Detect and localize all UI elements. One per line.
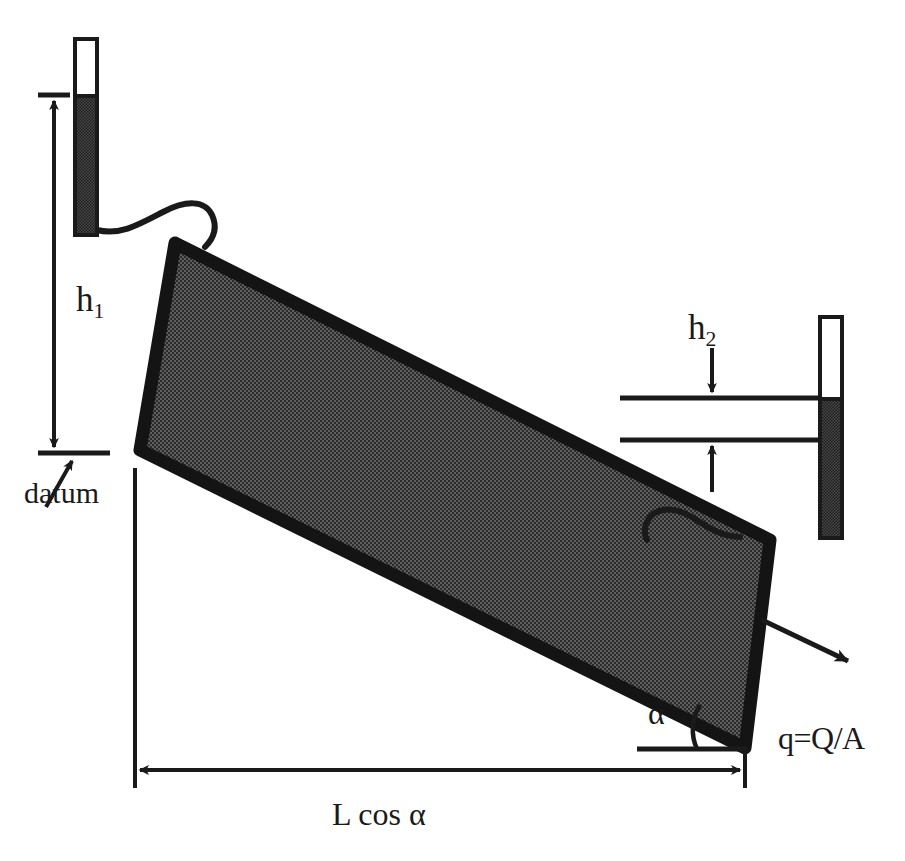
left-manometer (75, 39, 215, 247)
left-connector-tube (97, 203, 215, 247)
label-h1: h1 (76, 282, 104, 322)
left-tube-glass (75, 39, 97, 96)
label-h2-subscript: 2 (706, 327, 717, 351)
label-h1-base: h (76, 280, 94, 319)
right-tube-glass (820, 317, 842, 399)
h2-dimension (620, 348, 818, 492)
left-tube-water (75, 96, 97, 235)
label-h2-base: h (688, 308, 706, 347)
flux-arrow (762, 620, 848, 661)
diagram-canvas (0, 0, 905, 861)
label-alpha: α (648, 697, 665, 729)
label-h2: h2 (688, 310, 716, 350)
label-h1-subscript: 1 (94, 299, 105, 323)
inclined-soil-column (140, 243, 770, 748)
right-tube-water (820, 399, 842, 538)
flux-arrow-group (762, 620, 848, 661)
soil-column-body (140, 243, 770, 748)
label-datum: datum (24, 478, 99, 508)
label-flux: q=Q/A (778, 722, 865, 754)
figure-root: h1 h2 datum α q=Q/A L cos α (0, 0, 905, 861)
label-length: L cos α (332, 798, 426, 830)
